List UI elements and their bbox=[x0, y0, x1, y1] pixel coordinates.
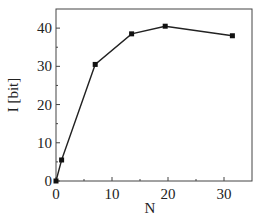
data-point bbox=[54, 179, 59, 184]
data-point bbox=[59, 157, 64, 162]
y-tick-label: 0 bbox=[45, 173, 53, 189]
y-axis-label: I [bit] bbox=[5, 78, 21, 113]
y-tick-label: 10 bbox=[37, 135, 52, 151]
x-tick-label: 0 bbox=[52, 186, 60, 202]
y-tick-label: 20 bbox=[37, 97, 52, 113]
y-tick-label: 30 bbox=[37, 58, 52, 74]
x-tick-label: 20 bbox=[161, 186, 176, 202]
y-tick-label: 40 bbox=[37, 20, 52, 36]
data-line bbox=[56, 26, 232, 181]
x-tick-label: 30 bbox=[217, 186, 232, 202]
data-point bbox=[230, 33, 235, 38]
line-chart: 0102030400102030NI [bit] bbox=[0, 0, 258, 219]
data-point bbox=[163, 24, 168, 29]
data-point bbox=[93, 62, 98, 67]
x-tick-label: 10 bbox=[105, 186, 120, 202]
x-axis-label: N bbox=[145, 200, 156, 216]
data-point bbox=[129, 31, 134, 36]
